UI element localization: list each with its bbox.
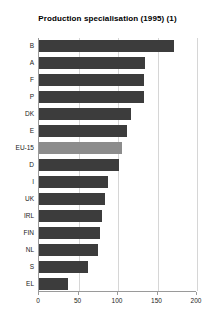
- bar-nl: [39, 244, 98, 256]
- bar-row: [39, 124, 196, 138]
- bar-eu-15: [39, 142, 122, 154]
- bar-s: [39, 261, 88, 273]
- chart-title: Production specialisation (1995) (1): [0, 14, 215, 24]
- bar-fin: [39, 227, 100, 239]
- x-axis-tick-200: [196, 292, 197, 295]
- bar-row: [39, 107, 196, 121]
- bar-f: [39, 74, 144, 86]
- bar-uk: [39, 193, 105, 205]
- bar-row: [39, 141, 196, 155]
- x-axis-tick-150: [157, 292, 158, 295]
- bar-d: [39, 159, 119, 171]
- bar-row: [39, 243, 196, 257]
- y-axis-label-uk: UK: [25, 195, 34, 203]
- bar-irl: [39, 210, 102, 222]
- x-axis-label-100: 100: [104, 297, 130, 305]
- y-axis-label-eu-15: EU-15: [16, 144, 34, 152]
- x-axis-tick-100: [117, 292, 118, 295]
- x-axis-label-50: 50: [65, 297, 91, 305]
- bar-row: [39, 158, 196, 172]
- y-axis-label-d: D: [29, 161, 34, 169]
- y-axis-label-fin: FIN: [24, 229, 34, 237]
- y-axis-label-a: A: [30, 59, 34, 67]
- bars-layer: [39, 38, 196, 291]
- y-axis-label-e: E: [30, 127, 34, 135]
- bar-row: [39, 90, 196, 104]
- bar-row: [39, 260, 196, 274]
- bar-el: [39, 278, 68, 290]
- bar-row: [39, 175, 196, 189]
- bar-i: [39, 176, 108, 188]
- bar-row: [39, 39, 196, 53]
- bar-p: [39, 91, 144, 103]
- y-axis-label-b: B: [30, 42, 34, 50]
- bar-row: [39, 277, 196, 291]
- y-axis-label-i: I: [32, 178, 34, 186]
- y-axis-label-f: F: [30, 76, 34, 84]
- x-axis-tick-0: [38, 292, 39, 295]
- x-axis-label-200: 200: [183, 297, 209, 305]
- bar-e: [39, 125, 127, 137]
- bar-row: [39, 226, 196, 240]
- y-axis-label-s: S: [30, 263, 34, 271]
- y-axis-label-p: P: [30, 93, 34, 101]
- bar-row: [39, 56, 196, 70]
- bar-dk: [39, 108, 131, 120]
- bar-a: [39, 57, 145, 69]
- y-axis-label-dk: DK: [25, 110, 34, 118]
- x-axis-tick-50: [78, 292, 79, 295]
- x-axis-label-150: 150: [144, 297, 170, 305]
- bar-b: [39, 40, 174, 52]
- plot-area: [38, 38, 196, 292]
- y-axis-label-el: EL: [26, 280, 34, 288]
- y-axis-label-irl: IRL: [24, 212, 34, 220]
- x-axis-label-0: 0: [25, 297, 51, 305]
- bar-row: [39, 192, 196, 206]
- gridline-200: [197, 38, 198, 291]
- bar-row: [39, 209, 196, 223]
- chart-container: Production specialisation (1995) (1) BAF…: [0, 0, 215, 319]
- y-axis-label-nl: NL: [26, 246, 34, 254]
- bar-row: [39, 73, 196, 87]
